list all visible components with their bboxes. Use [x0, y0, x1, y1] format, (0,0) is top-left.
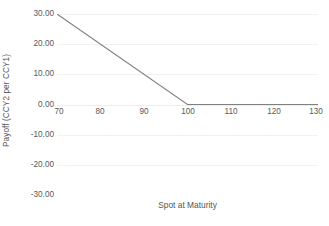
x-tick-label: 130: [296, 108, 329, 116]
y-tick-label: 30.00: [12, 10, 54, 18]
y-tick-label: -20.00: [12, 161, 54, 169]
x-tick-label: 90: [124, 108, 164, 116]
y-tick-label: -30.00: [12, 191, 54, 199]
payoff-series-line: [57, 14, 318, 105]
y-axis-title-text: Payoff (CCY2 per CCY1): [3, 53, 12, 146]
x-tick-label: 110: [211, 108, 251, 116]
x-tick-label: 70: [39, 108, 79, 116]
y-tick-label: 20.00: [12, 40, 54, 48]
x-tick-label: 100: [168, 108, 208, 116]
plot-svg: [57, 14, 318, 195]
chart-container: Payoff (CCY2 per CCY1) 30.00 20.00 10.00…: [0, 0, 329, 226]
y-tick-label: 10.00: [12, 70, 54, 78]
x-axis-tick-labels: 70 80 90 100 110 120 130: [0, 108, 329, 122]
x-tick-label: 120: [254, 108, 294, 116]
x-axis-title: Spot at Maturity: [57, 200, 318, 210]
plot-area: [57, 14, 318, 195]
x-tick-label: 80: [80, 108, 120, 116]
y-tick-label: -10.00: [12, 131, 54, 139]
